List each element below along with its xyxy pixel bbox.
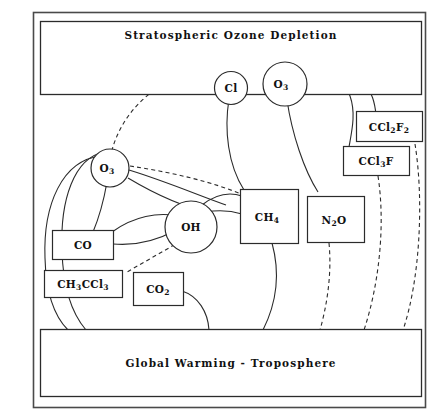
node-o3-stratospheric[interactable]: O3 — [263, 62, 307, 106]
node-ch3ccl3[interactable]: CH3CCl3 — [45, 271, 123, 298]
node-ccl2f2[interactable]: CCl2F2 — [357, 112, 423, 142]
node-n2o[interactable]: N2O — [308, 197, 365, 243]
edge-ch4-to-bottom — [263, 243, 277, 330]
edge-o3strat-to-n2o — [287, 100, 318, 192]
edge-o3trop-to-co — [93, 182, 107, 232]
stratospheric-band-label: Stratospheric Ozone Depletion — [124, 29, 337, 41]
troposphere-band-label: Global Warming - Troposphere — [125, 357, 336, 369]
node-oh-label: OH — [181, 221, 201, 233]
node-co-label: CO — [74, 239, 92, 251]
ozone-troposphere-diagram: Stratospheric Ozone Depletion Global War… — [0, 0, 443, 418]
edge-cl-to-ch4 — [227, 99, 244, 190]
troposphere-band-group: Global Warming - Troposphere — [41, 330, 422, 397]
node-oh[interactable]: OH — [165, 201, 217, 253]
edge-co2-to-bottom — [182, 291, 209, 330]
edge-o3trop-outer-right-arc — [129, 170, 226, 205]
node-ccl3f[interactable]: CCl3F — [344, 147, 410, 176]
node-o3-tropospheric[interactable]: O3 — [91, 149, 129, 187]
node-ch4[interactable]: CH4 — [241, 190, 299, 244]
node-cl-label: Cl — [225, 82, 238, 94]
edge-ccl3f-to-bottom-dashed — [364, 176, 381, 330]
node-co[interactable]: CO — [53, 231, 114, 260]
node-co2[interactable]: CO2 — [134, 273, 184, 306]
diagram-canvas: Stratospheric Ozone Depletion Global War… — [0, 0, 443, 418]
edge-n2o-to-bottom-dashed — [320, 243, 330, 330]
node-cl[interactable]: Cl — [215, 72, 248, 105]
